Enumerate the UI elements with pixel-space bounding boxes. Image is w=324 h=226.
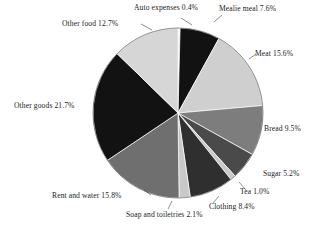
- pie-label-tea: Tea 1.0%: [240, 188, 269, 196]
- pie-label-auto-expenses: Auto expenses 0.4%: [134, 4, 198, 12]
- pie-label-sugar: Sugar 5.2%: [263, 170, 299, 178]
- pie-label-soap-and-toiletries: Soap and toiletries 2.1%: [126, 211, 203, 219]
- pie-label-bread: Bread 9.5%: [264, 125, 301, 133]
- pie-label-other-goods: Other goods 21.7%: [14, 102, 75, 110]
- pie-label-clothing: Clothing 8.4%: [209, 203, 255, 211]
- pie-leader-line: [214, 15, 222, 22]
- pie-label-meat: Meat 15.6%: [255, 50, 293, 58]
- pie-label-other-food: Other food 12.7%: [62, 20, 118, 28]
- pie-chart-svg: [0, 0, 324, 226]
- chart-area: Auto expenses 0.4% Mealie meal 7.6% Meat…: [0, 0, 324, 226]
- pie-leader-line: [141, 24, 152, 30]
- pie-label-rent-and-water: Rent and water 15.8%: [52, 192, 121, 200]
- pie-leader-line: [181, 18, 192, 25]
- pie-leader-line: [168, 201, 172, 209]
- pie-label-mealie-meal: Mealie meal 7.6%: [219, 5, 276, 13]
- pie-slices-group: [93, 28, 263, 198]
- pie-chart-figure: Auto expenses 0.4% Mealie meal 7.6% Meat…: [0, 0, 324, 226]
